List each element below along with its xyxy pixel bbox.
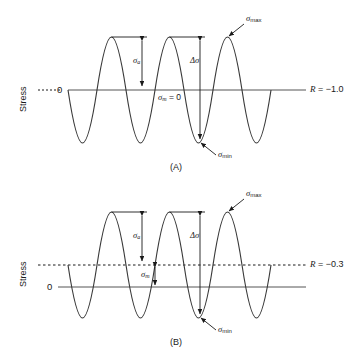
sigma-max-leader-a	[229, 24, 244, 36]
sigma-max-subscript-a: max	[250, 17, 261, 23]
fatigue-stress-cycle-figure: Stress 0 σa Δσ σm = 0 σmax σmin RR = −1.…	[0, 0, 352, 364]
sigma-a-subscript-b: a	[137, 234, 140, 240]
sigma-a-subscript-a: a	[137, 59, 140, 65]
stress-ratio-label-a: RR = −1.0 = −1.0	[310, 85, 344, 94]
panel-a: Stress 0 σa Δσ σm = 0 σmax σmin RR = −1.…	[0, 0, 352, 182]
stress-ratio-label-b: R = −0.3	[310, 260, 344, 269]
panel-caption-a: (A)	[0, 162, 352, 172]
sigma-min-subscript-b: min	[222, 328, 232, 334]
panel-caption-b: (B)	[0, 337, 352, 347]
delta-sigma-symbol-a: Δσ	[190, 55, 199, 65]
zero-label-a: 0	[57, 85, 62, 95]
sigma-min-label-b: σmin	[218, 325, 232, 334]
sigma-min-label-a: σmin	[218, 150, 232, 159]
sigma-m-subscript-b: m	[145, 273, 149, 279]
panel-a-plot	[0, 0, 352, 182]
sigma-min-leader-a	[201, 143, 216, 155]
delta-sigma-symbol-b: Δσ	[190, 230, 199, 240]
r-value-text-a: = −1.0	[316, 84, 344, 94]
sigma-m-label-b: σm	[141, 270, 150, 279]
sigma-m-suffix-a: = 0	[167, 92, 181, 102]
sigma-m-label-a: σm = 0	[158, 93, 181, 102]
sigma-max-label-a: σmax	[246, 14, 262, 23]
y-axis-title-a: Stress	[18, 86, 28, 112]
r-value-text-b: = −0.3	[316, 259, 344, 269]
sigma-max-label-b: σmax	[246, 189, 262, 198]
sigma-min-subscript-a: min	[222, 153, 232, 159]
sigma-a-label-a: σa	[133, 56, 140, 65]
panel-a-svg	[0, 0, 352, 182]
delta-sigma-label-b: Δσ	[190, 231, 199, 240]
panel-b: Stress 0 σa Δσ σm σmax σmin R = −0.3 (B)	[0, 182, 352, 364]
sigma-a-label-b: σa	[133, 231, 140, 240]
sigma-max-subscript-b: max	[250, 192, 261, 198]
y-axis-title-b: Stress	[18, 261, 28, 287]
sigma-min-leader-b	[201, 318, 216, 330]
sigma-max-leader-b	[229, 199, 244, 211]
delta-sigma-label-a: Δσ	[190, 56, 199, 65]
zero-label-b: 0	[47, 282, 52, 292]
